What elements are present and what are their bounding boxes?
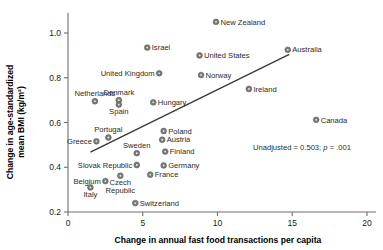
data-point-norway[interactable]: Norway bbox=[198, 71, 231, 80]
marker-dot-center bbox=[136, 152, 138, 154]
marker-dot-center bbox=[136, 164, 138, 166]
x-axis: 05101520 bbox=[66, 212, 376, 228]
marker-dot-center bbox=[161, 139, 163, 141]
point-label-ireland: Ireland bbox=[253, 85, 276, 94]
point-label-canada: Canada bbox=[321, 116, 348, 125]
point-label-austria: Austria bbox=[167, 135, 191, 144]
data-point-australia[interactable]: Australia bbox=[285, 45, 323, 54]
point-label-new-zealand: New Zealand bbox=[221, 18, 266, 27]
marker-dot-center bbox=[107, 137, 109, 139]
data-point-france[interactable]: France bbox=[147, 170, 178, 179]
point-label-portugal: Portugal bbox=[94, 125, 123, 134]
marker-dot-center bbox=[215, 21, 217, 23]
point-label-poland: Poland bbox=[168, 127, 192, 136]
point-label-australia: Australia bbox=[292, 45, 322, 54]
data-point-hungary[interactable]: Hungary bbox=[150, 98, 186, 107]
data-point-united-kingdom[interactable]: United Kingdom bbox=[101, 69, 162, 78]
point-label-united-kingdom: United Kingdom bbox=[101, 69, 155, 78]
data-point-italy[interactable]: Italy bbox=[83, 184, 97, 198]
point-label-hungary: Hungary bbox=[158, 98, 187, 107]
marker-dot-center bbox=[248, 88, 250, 90]
point-label-united-states: United States bbox=[204, 51, 250, 60]
point-label-france: France bbox=[155, 170, 179, 179]
y-tick-label-4: 1.0 bbox=[49, 28, 61, 38]
annotation-p-value: = .001 bbox=[328, 143, 351, 152]
x-tick-label-4: 20 bbox=[362, 218, 372, 228]
y-tick-label-0: 0.2 bbox=[49, 207, 61, 217]
point-label-belgium: Belgium bbox=[73, 177, 100, 186]
y-axis-title-line-1: Change in age-standardized bbox=[5, 65, 15, 180]
data-point-united-states[interactable]: United States bbox=[197, 51, 250, 60]
point-label-sweden: Sweden bbox=[123, 141, 150, 150]
statistics-annotation: Unadjusted = 0.503; p = .001 bbox=[253, 143, 351, 152]
marker-dot-center bbox=[199, 54, 201, 56]
point-label-italy: Italy bbox=[83, 190, 97, 199]
marker-dot-center bbox=[119, 175, 121, 177]
marker-dot-center bbox=[200, 74, 202, 76]
x-axis-title: Change in annual fast food transactions … bbox=[115, 235, 322, 245]
marker-dot-center bbox=[90, 186, 92, 188]
y-axis: 0.20.40.60.81.0 bbox=[49, 13, 68, 217]
point-label-switzerland: Switzerland bbox=[140, 199, 179, 208]
data-point-new-zealand[interactable]: New Zealand bbox=[213, 18, 265, 27]
data-point-greece[interactable]: Greece bbox=[67, 137, 99, 146]
marker-dot-center bbox=[158, 72, 160, 74]
y-tick-label-3: 0.8 bbox=[49, 73, 61, 83]
data-point-czech-republic[interactable]: CzechRepublic bbox=[106, 173, 136, 195]
y-tick-label-1: 0.4 bbox=[49, 162, 61, 172]
marker-dot-center bbox=[163, 165, 165, 167]
x-tick-label-3: 15 bbox=[288, 218, 298, 228]
marker-dot-center bbox=[149, 174, 151, 176]
x-tick-label-1: 5 bbox=[140, 218, 145, 228]
y-tick-label-2: 0.6 bbox=[49, 118, 61, 128]
point-label-slovak-republic: Slovak Republic bbox=[78, 161, 133, 170]
data-point-sweden[interactable]: Sweden bbox=[123, 141, 150, 156]
data-point-ireland[interactable]: Ireland bbox=[246, 85, 277, 94]
marker-dot-center bbox=[134, 202, 136, 204]
point-label-germany: Germany bbox=[168, 161, 199, 170]
point-label-netherlands: Netherlands bbox=[74, 89, 115, 98]
marker-dot-center bbox=[164, 151, 166, 153]
point-label-czech-republic-line2: Republic bbox=[106, 186, 136, 195]
data-point-israel[interactable]: Israel bbox=[144, 43, 170, 52]
marker-dot-center bbox=[146, 47, 148, 49]
data-point-netherlands[interactable]: Netherlands bbox=[74, 89, 115, 104]
plot-canvas: 0.20.40.60.81.0 05101520 New ZealandIsra… bbox=[0, 0, 383, 250]
annotation-text: Unadjusted = 0.503; p = .001 bbox=[253, 143, 351, 152]
x-tick-label-2: 10 bbox=[213, 218, 223, 228]
scatter-plot-figure: 0.20.40.60.81.0 05101520 New ZealandIsra… bbox=[0, 0, 383, 250]
marker-dot-center bbox=[96, 140, 98, 142]
data-point-slovak-republic[interactable]: Slovak Republic bbox=[78, 161, 140, 170]
data-point-germany[interactable]: Germany bbox=[161, 161, 200, 170]
point-label-israel: Israel bbox=[152, 43, 171, 52]
y-axis-title-line-2: mean BMI (kg/m²) bbox=[16, 86, 26, 158]
marker-dot-center bbox=[315, 119, 317, 121]
data-point-finland[interactable]: Finland bbox=[162, 147, 194, 156]
marker-dot-center bbox=[152, 101, 154, 103]
data-point-austria[interactable]: Austria bbox=[159, 135, 191, 144]
point-label-greece: Greece bbox=[67, 137, 92, 146]
data-points-layer: New ZealandIsraelAustraliaUnited StatesU… bbox=[67, 18, 348, 208]
marker-dot-center bbox=[118, 99, 120, 101]
data-point-poland[interactable]: Poland bbox=[161, 127, 192, 136]
point-label-spain: Spain bbox=[109, 107, 128, 116]
annotation-coefficient: Unadjusted = 0.503; bbox=[253, 143, 323, 152]
marker-dot-center bbox=[94, 100, 96, 102]
data-point-switzerland[interactable]: Switzerland bbox=[132, 199, 179, 208]
point-label-norway: Norway bbox=[206, 71, 232, 80]
marker-dot-center bbox=[163, 130, 165, 132]
data-point-spain[interactable]: Spain bbox=[109, 102, 128, 116]
marker-dot-center bbox=[118, 104, 120, 106]
point-label-finland: Finland bbox=[170, 147, 195, 156]
x-tick-label-0: 0 bbox=[66, 218, 71, 228]
data-point-canada[interactable]: Canada bbox=[313, 116, 348, 125]
marker-dot-center bbox=[104, 180, 106, 182]
marker-dot-center bbox=[287, 49, 289, 51]
